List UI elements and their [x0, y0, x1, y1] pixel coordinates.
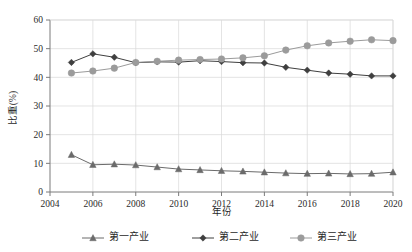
data-point-marker — [68, 70, 75, 77]
data-point-marker — [304, 43, 311, 50]
data-point-marker — [347, 38, 354, 45]
data-point-marker — [200, 235, 206, 241]
series-2 — [68, 51, 396, 79]
x-tick-label: 2016 — [298, 199, 317, 209]
legend-label: 第一产业 — [109, 230, 149, 242]
x-tick-label: 2006 — [83, 199, 102, 209]
y-tick-label: 40 — [34, 73, 44, 83]
x-tick-label: 2010 — [169, 199, 188, 209]
data-point-marker — [68, 59, 74, 65]
data-point-marker — [240, 55, 247, 62]
data-point-marker — [390, 37, 397, 44]
data-point-marker — [283, 47, 290, 54]
chart-page: 0102030405060200420062008201020122014201… — [0, 0, 412, 252]
grid-lines — [50, 20, 393, 192]
series-3 — [68, 36, 396, 76]
data-point-marker — [261, 60, 267, 66]
legend-label: 第二产业 — [219, 230, 259, 242]
data-point-marker — [261, 53, 268, 60]
legend: 第一产业第二产业第三产业 — [82, 230, 357, 242]
series-line — [71, 40, 393, 73]
x-tick-label: 2020 — [384, 199, 403, 209]
data-point-marker — [283, 64, 289, 70]
series-layer — [68, 36, 396, 176]
data-point-marker — [132, 59, 139, 66]
x-tick-label: 2018 — [341, 199, 360, 209]
data-point-marker — [154, 58, 161, 65]
data-point-marker — [197, 56, 204, 63]
data-point-marker — [298, 235, 305, 242]
data-point-marker — [368, 36, 375, 43]
axis-tick-labels: 0102030405060200420062008201020122014201… — [34, 15, 403, 209]
y-tick-label: 60 — [34, 15, 44, 25]
series-line — [71, 155, 393, 174]
data-point-marker — [90, 51, 96, 57]
y-tick-label: 0 — [38, 187, 43, 197]
data-point-marker — [368, 73, 374, 79]
series-1 — [68, 151, 396, 176]
line-chart: 0102030405060200420062008201020122014201… — [0, 0, 412, 252]
data-point-marker — [325, 70, 331, 76]
x-tick-label: 2008 — [126, 199, 145, 209]
legend-item-2[interactable]: 第二产业 — [192, 230, 259, 242]
y-tick-label: 20 — [34, 130, 44, 140]
y-tick-label: 50 — [34, 44, 44, 54]
data-point-marker — [325, 40, 332, 47]
y-tick-label: 10 — [34, 159, 44, 169]
data-point-marker — [347, 71, 353, 77]
data-point-marker — [68, 151, 74, 157]
data-point-marker — [390, 73, 396, 79]
x-axis-title: 年份 — [212, 206, 232, 217]
series-line — [71, 54, 393, 76]
x-tick-label: 2004 — [41, 199, 60, 209]
y-tick-label: 30 — [34, 101, 44, 111]
data-point-marker — [175, 57, 182, 64]
legend-item-3[interactable]: 第三产业 — [290, 230, 357, 242]
legend-item-1[interactable]: 第一产业 — [82, 230, 149, 242]
data-point-marker — [304, 67, 310, 73]
axis-ticks — [46, 20, 393, 196]
data-point-marker — [111, 54, 117, 60]
data-point-marker — [90, 68, 97, 75]
data-point-marker — [111, 65, 118, 72]
x-tick-label: 2014 — [255, 199, 274, 209]
y-axis-title: 比重(%) — [7, 91, 19, 125]
data-point-marker — [218, 56, 225, 63]
legend-label: 第三产业 — [317, 230, 357, 242]
